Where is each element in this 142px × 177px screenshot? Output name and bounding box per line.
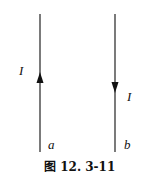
arrow-up-icon (37, 72, 44, 83)
figure-caption: 图 12. 3-11 (44, 157, 115, 174)
diagram-canvas (0, 0, 142, 177)
current-label-a: I (19, 63, 23, 79)
arrow-down-icon (112, 82, 119, 93)
wire-label-a: a (48, 137, 55, 153)
current-label-b: I (127, 89, 131, 105)
wire-label-b: b (124, 137, 131, 153)
